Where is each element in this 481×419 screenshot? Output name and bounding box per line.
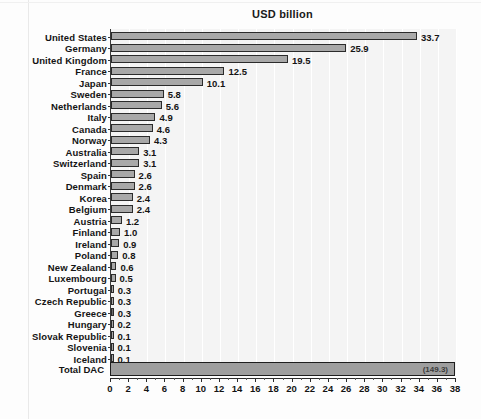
category-label: Finland xyxy=(73,227,107,238)
bar xyxy=(111,262,116,270)
x-tick-minor-1 xyxy=(119,378,120,380)
x-tick-label-24: 24 xyxy=(323,383,334,394)
category-label: Slovenia xyxy=(67,342,107,353)
bar xyxy=(111,159,139,167)
bar-value-label: 4.3 xyxy=(154,135,167,146)
bar xyxy=(111,297,114,305)
bar xyxy=(111,78,203,86)
bar-row: United Kingdom19.5 xyxy=(111,54,456,66)
category-label: Spain xyxy=(81,169,107,180)
x-tick-minor-27 xyxy=(355,378,356,380)
x-tick-label-12: 12 xyxy=(214,383,225,394)
bar-row: France12.5 xyxy=(111,66,456,78)
bar-chart: USD billion United States33.7Germany25.9… xyxy=(0,0,481,419)
bar xyxy=(111,251,118,259)
bar-value-label: 33.7 xyxy=(421,31,440,42)
bar-value-label: 0.3 xyxy=(118,284,131,295)
category-label: Denmark xyxy=(66,181,107,192)
bar-value-label: 5.6 xyxy=(166,100,179,111)
total-value-label: (149.3) xyxy=(423,365,448,374)
total-bar: (149.3) xyxy=(110,362,455,376)
bar-row: Sweden5.8 xyxy=(111,89,456,101)
bar-value-label: 25.9 xyxy=(350,43,369,54)
bar-value-label: 2.4 xyxy=(137,204,150,215)
category-label: France xyxy=(75,66,107,77)
x-tick-20 xyxy=(292,378,293,382)
bar-row: Luxembourg0.5 xyxy=(111,273,456,285)
bar xyxy=(111,285,114,293)
bar-row: Portugal0.3 xyxy=(111,284,456,296)
chart-screenshot: USD billion United States33.7Germany25.9… xyxy=(0,0,481,419)
bar-row: Korea2.4 xyxy=(111,192,456,204)
x-tick-12 xyxy=(219,378,220,382)
plot-area: United States33.7Germany25.9United Kingd… xyxy=(110,29,456,374)
bar-value-label: 0.6 xyxy=(120,261,133,272)
bar-row: Netherlands5.6 xyxy=(111,100,456,112)
category-label: Japan xyxy=(79,77,107,88)
x-tick-minor-25 xyxy=(337,378,338,380)
category-label: Austria xyxy=(74,215,107,226)
bar-row: Norway4.3 xyxy=(111,135,456,147)
category-label: Czech Republic xyxy=(35,296,107,307)
x-tick-6 xyxy=(164,378,165,382)
bar-row: Japan10.1 xyxy=(111,77,456,89)
x-tick-minor-17 xyxy=(264,378,265,380)
x-tick-label-34: 34 xyxy=(413,383,424,394)
category-label: Sweden xyxy=(71,89,108,100)
x-tick-minor-29 xyxy=(373,378,374,380)
bar-row: Czech Republic0.3 xyxy=(111,296,456,308)
x-tick-label-10: 10 xyxy=(195,383,206,394)
bar xyxy=(111,343,114,351)
bar-value-label: 12.5 xyxy=(228,66,247,77)
x-tick-22 xyxy=(310,378,311,382)
category-label: United Kingdom xyxy=(32,54,107,65)
x-tick-8 xyxy=(183,378,184,382)
bar-row: Slovak Republic0.1 xyxy=(111,330,456,342)
x-tick-label-38: 38 xyxy=(450,383,461,394)
bar-value-label: 1.2 xyxy=(126,215,139,226)
category-label: Hungary xyxy=(68,319,107,330)
bar-row: United States33.7 xyxy=(111,31,456,43)
category-label: Australia xyxy=(65,146,107,157)
bar-value-label: 0.1 xyxy=(118,330,131,341)
bar-row: Poland0.8 xyxy=(111,250,456,262)
category-label: Luxembourg xyxy=(48,273,107,284)
total-row: Total DAC (149.3) xyxy=(110,362,455,376)
bar-row: Germany25.9 xyxy=(111,43,456,55)
bar-row: New Zealand0.6 xyxy=(111,261,456,273)
bar-value-label: 3.1 xyxy=(143,158,156,169)
x-tick-18 xyxy=(273,378,274,382)
x-tick-2 xyxy=(128,378,129,382)
bar-row: Belgium2.4 xyxy=(111,204,456,216)
x-tick-30 xyxy=(382,378,383,382)
x-tick-10 xyxy=(201,378,202,382)
bar xyxy=(111,193,133,201)
bar-row: Australia3.1 xyxy=(111,146,456,158)
bar xyxy=(111,182,135,190)
category-label: Norway xyxy=(72,135,107,146)
bar-value-label: 19.5 xyxy=(292,54,311,65)
category-label: New Zealand xyxy=(48,261,107,272)
bar-row: Greece0.3 xyxy=(111,307,456,319)
category-label: Greece xyxy=(74,307,107,318)
x-tick-minor-23 xyxy=(319,378,320,380)
bar-row: Italy4.9 xyxy=(111,112,456,124)
bar xyxy=(111,170,135,178)
bar-value-label: 0.8 xyxy=(122,250,135,261)
bar-value-label: 1.0 xyxy=(124,227,137,238)
x-tick-28 xyxy=(364,378,365,382)
bar-row: Austria1.2 xyxy=(111,215,456,227)
x-tick-34 xyxy=(419,378,420,382)
bar-value-label: 0.2 xyxy=(118,319,131,330)
x-tick-36 xyxy=(437,378,438,382)
gridline-38 xyxy=(456,29,457,374)
x-tick-label-18: 18 xyxy=(268,383,279,394)
bar xyxy=(111,239,119,247)
x-tick-label-16: 16 xyxy=(250,383,261,394)
x-tick-label-30: 30 xyxy=(377,383,388,394)
bar xyxy=(111,228,120,236)
x-tick-label-2: 2 xyxy=(126,383,131,394)
bar-value-label: 5.8 xyxy=(168,89,181,100)
bar xyxy=(111,67,224,75)
category-label: Netherlands xyxy=(51,100,107,111)
